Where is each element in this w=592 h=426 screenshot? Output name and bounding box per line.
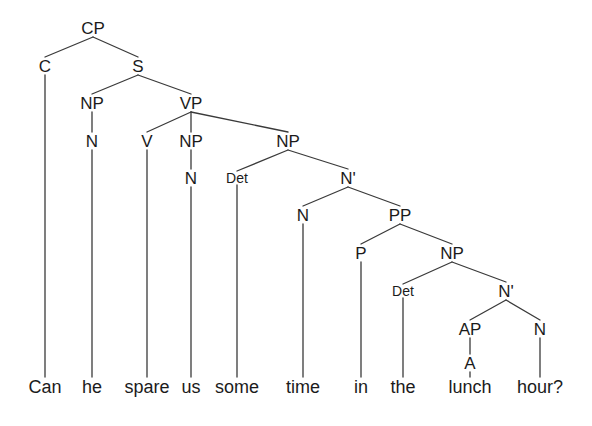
tree-branch	[45, 37, 93, 57]
tree-branch	[403, 262, 452, 284]
tree-branch	[303, 187, 348, 206]
tree-branch	[147, 112, 191, 132]
tree-leaf-w5: some	[215, 378, 259, 396]
tree-branch	[506, 300, 540, 320]
tree-leaf-w6: time	[286, 378, 320, 396]
tree-leaf-w8: the	[390, 378, 415, 396]
tree-node-c: C	[39, 58, 51, 75]
tree-branch	[400, 224, 452, 244]
tree-branch	[92, 75, 138, 94]
tree-node-ap: AP	[459, 321, 482, 338]
tree-node-n3: N	[297, 207, 309, 224]
tree-node-n2: N	[185, 170, 197, 187]
tree-node-pp: PP	[389, 207, 412, 224]
tree-node-np3: NP	[276, 133, 300, 150]
tree-branch	[348, 187, 400, 206]
tree-branch	[452, 262, 506, 282]
tree-leaf-w10: hour?	[517, 378, 563, 396]
tree-leaf-w3: spare	[124, 378, 169, 396]
tree-branch	[288, 150, 348, 169]
tree-node-np4: NP	[440, 245, 464, 262]
tree-branch	[470, 300, 506, 320]
tree-leaf-w2: he	[82, 378, 102, 396]
tree-leaf-w1: Can	[28, 378, 61, 396]
tree-node-det1: Det	[226, 171, 248, 185]
tree-branch	[191, 112, 288, 132]
tree-node-n4: N	[534, 321, 546, 338]
syntax-tree-figure: CPCSNPVPNVNPNPNDetN'NPPPNPDetN'APNACanhe…	[0, 0, 592, 426]
tree-node-s: S	[132, 58, 143, 75]
tree-node-vp: VP	[180, 95, 203, 112]
tree-node-cp: CP	[81, 20, 105, 37]
tree-leaf-w9: lunch	[448, 378, 491, 396]
tree-branch	[93, 37, 138, 57]
tree-branch	[237, 150, 288, 171]
tree-node-np2: NP	[179, 133, 203, 150]
tree-leaf-w7: in	[354, 378, 368, 396]
tree-node-nbar1: N'	[340, 170, 356, 187]
tree-branch	[138, 75, 191, 94]
tree-leaf-w4: us	[181, 378, 200, 396]
tree-node-np1: NP	[80, 95, 104, 112]
tree-node-v: V	[141, 133, 152, 150]
tree-node-nbar2: N'	[498, 283, 514, 300]
tree-branch	[361, 224, 400, 244]
tree-node-p: P	[355, 245, 366, 262]
tree-node-det2: Det	[392, 284, 414, 298]
tree-node-a: A	[464, 355, 475, 372]
tree-node-n1: N	[86, 133, 98, 150]
